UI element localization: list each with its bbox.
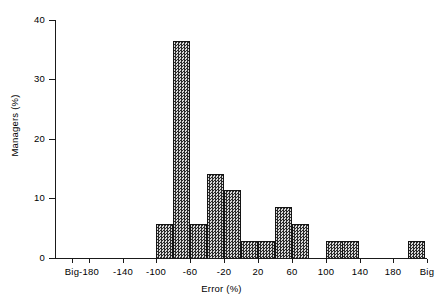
bars-layer	[0, 0, 443, 302]
x-tick-140	[360, 259, 361, 263]
bar-bin--60	[190, 224, 207, 259]
x-tick-big-right	[427, 259, 428, 263]
x-tick-100	[326, 259, 327, 263]
bar-bin--80	[173, 41, 190, 259]
x-tick-180	[393, 259, 394, 263]
x-tick-60	[292, 259, 293, 263]
x-tick-20	[258, 259, 259, 263]
bar-bin--20	[224, 190, 241, 259]
bar-bin--40	[207, 174, 224, 259]
x-tick--20	[224, 259, 225, 263]
x-tick--60	[190, 259, 191, 263]
bar-bin-40	[275, 207, 292, 259]
bar-bin-20	[258, 241, 275, 259]
bar-bin-60	[292, 224, 309, 259]
bar-bin-120	[342, 241, 359, 259]
x-tick-big-left	[72, 259, 73, 263]
x-tick--100	[156, 259, 157, 263]
x-tick--140	[123, 259, 124, 263]
histogram-chart: 0 10 20 30 40 Managers (%)	[0, 0, 443, 302]
bar-bin-big	[408, 241, 425, 259]
x-tick-label-big-right: Big	[407, 266, 443, 277]
bar-bin-0	[241, 241, 258, 259]
x-tick--180	[89, 259, 90, 263]
bar-bin--100	[156, 224, 173, 259]
x-axis-title: Error (%)	[0, 283, 443, 294]
x-axis-line	[55, 258, 427, 259]
bar-bin-100	[326, 241, 343, 259]
